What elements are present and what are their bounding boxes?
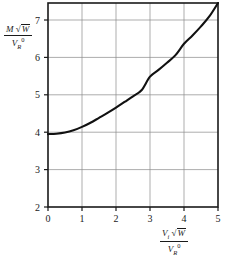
x-axis-num-sub: i — [168, 233, 170, 240]
chart-plot: 7 6 5 4 3 2 0 1 2 3 4 5 — [0, 0, 230, 260]
grid-horizontal — [48, 20, 218, 170]
x-axis-num-radical: √W — [172, 228, 186, 238]
x-tick-labels: 0 1 2 3 4 5 — [46, 213, 221, 224]
xtick-label-2: 2 — [114, 213, 119, 224]
x-axis-title-fraction: Vi √W VR0 — [160, 228, 188, 257]
xtick-label-4: 4 — [182, 213, 187, 224]
xtick-label-1: 1 — [80, 213, 85, 224]
y-axis-num-var: M — [6, 24, 14, 34]
grid-vertical — [82, 3, 184, 207]
ytick-label-2: 2 — [35, 202, 40, 213]
y-axis-title-denominator: VR0 — [4, 36, 32, 50]
axes-frame — [48, 3, 218, 207]
figure-container: 7 6 5 4 3 2 0 1 2 3 4 5 M √W VR0 Vi √W V… — [0, 0, 230, 260]
y-axis-num-radicand: W — [21, 24, 31, 34]
x-axis-den-sup: 0 — [177, 242, 180, 249]
data-series-curve — [48, 3, 218, 134]
y-tick-labels: 7 6 5 4 3 2 — [35, 15, 40, 213]
xtick-label-3: 3 — [148, 213, 153, 224]
x-axis-title: Vi √W VR0 — [160, 228, 188, 257]
y-axis-den-sup: 0 — [21, 36, 24, 43]
x-axis-num-radicand: W — [177, 228, 187, 238]
x-axis-den-sub: R — [173, 249, 177, 256]
xtick-label-5: 5 — [216, 213, 221, 224]
ytick-label-6: 6 — [35, 52, 40, 63]
x-axis-title-numerator: Vi √W — [160, 228, 188, 242]
y-axis-num-radical: √W — [16, 24, 30, 34]
xtick-label-0: 0 — [46, 213, 51, 224]
ytick-label-3: 3 — [35, 164, 40, 175]
ytick-label-4: 4 — [35, 127, 40, 138]
y-axis-title-numerator: M √W — [4, 24, 32, 36]
y-axis-title-fraction: M √W VR0 — [4, 24, 32, 51]
x-axis-title-denominator: VR0 — [160, 242, 188, 256]
y-axis-title: M √W VR0 — [4, 24, 32, 51]
y-axis-den-sub: R — [17, 43, 21, 50]
ytick-label-7: 7 — [35, 15, 40, 26]
ytick-label-5: 5 — [35, 89, 40, 100]
